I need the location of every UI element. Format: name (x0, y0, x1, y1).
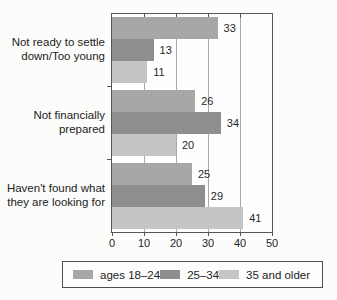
category-label-line: Not ready to settle (0, 35, 105, 49)
legend-swatch-1 (160, 270, 180, 279)
x-axis: 01020304050 (112, 232, 273, 254)
legend-label-2: 35 and older (246, 269, 310, 281)
category-label-line: down/Too young (0, 49, 105, 63)
bar-35-and-older-cat1 (112, 134, 176, 156)
bar-ages-18-24-cat0 (112, 17, 218, 39)
bar-value-label: 41 (249, 207, 261, 229)
x-axis-tick-30 (208, 232, 209, 236)
category-label-line: Not financially (0, 108, 105, 122)
x-axis-tick-label-40: 40 (234, 237, 246, 249)
legend-item-1: 25–34 (160, 269, 219, 281)
category-label-line: prepared (0, 122, 105, 136)
bar-25-34-cat2 (112, 185, 205, 207)
legend-item-2: 35 and older (219, 269, 310, 281)
category-label-line: they are looking for (0, 195, 105, 209)
bar-chart-figure: 331311263420252941 Not ready to settledo… (0, 0, 337, 300)
legend-label-1: 25–34 (187, 269, 219, 281)
bar-value-label: 34 (227, 112, 239, 134)
gridline-x-40 (240, 14, 241, 232)
x-axis-tick-label-50: 50 (266, 237, 278, 249)
x-axis-tick-20 (176, 232, 177, 236)
bar-25-34-cat1 (112, 112, 221, 134)
legend: ages 18–2425–3435 and older (62, 261, 323, 288)
x-axis-tick-label-20: 20 (170, 237, 182, 249)
category-label-0: Not ready to settledown/Too young (0, 35, 105, 63)
bar-value-label: 26 (201, 90, 213, 112)
plot-area: 331311263420252941 (111, 13, 273, 233)
category-divider-tick-1 (107, 86, 112, 87)
top-tick-x-40 (240, 14, 241, 18)
category-label-line: Haven't found what (0, 181, 105, 195)
x-axis-tick-label-30: 30 (202, 237, 214, 249)
legend-swatch-0 (73, 270, 93, 279)
category-divider-tick-2 (107, 159, 112, 160)
x-axis-tick-0 (112, 232, 113, 236)
bar-value-label: 29 (211, 185, 223, 207)
category-axis-labels: Not ready to settledown/Too youngNot fin… (0, 13, 105, 231)
bar-ages-18-24-cat1 (112, 90, 195, 112)
x-axis-tick-label-0: 0 (109, 237, 115, 249)
bar-35-and-older-cat2 (112, 207, 243, 229)
legend-item-0: ages 18–24 (73, 269, 160, 281)
bar-value-label: 13 (160, 39, 172, 61)
x-axis-tick-50 (272, 232, 273, 236)
bar-value-label: 25 (198, 163, 210, 185)
x-axis-tick-label-10: 10 (138, 237, 150, 249)
bar-value-label: 11 (153, 61, 164, 83)
category-label-1: Not financiallyprepared (0, 108, 105, 136)
legend-swatch-2 (219, 270, 239, 279)
x-axis-tick-10 (144, 232, 145, 236)
bar-value-label: 33 (224, 17, 236, 39)
bar-ages-18-24-cat2 (112, 163, 192, 185)
legend-label-0: ages 18–24 (100, 269, 160, 281)
bar-25-34-cat0 (112, 39, 154, 61)
category-label-2: Haven't found whatthey are looking for (0, 181, 105, 209)
bar-value-label: 20 (182, 134, 194, 156)
x-axis-tick-40 (240, 232, 241, 236)
bar-35-and-older-cat0 (112, 61, 147, 83)
